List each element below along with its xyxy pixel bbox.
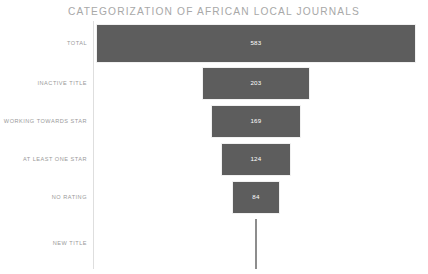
bar-track: 169 (96, 105, 416, 138)
category-label: WORKING TOWARDS STAR (4, 119, 87, 125)
bar-value-label: 124 (250, 156, 261, 162)
bar-value-label: 84 (252, 194, 259, 200)
category-label: NEW TITLE (53, 241, 87, 247)
chart-title: CATEGORIZATION OF AFRICAN LOCAL JOURNALS (0, 6, 428, 17)
bar-value-label: 169 (250, 118, 261, 124)
funnel-bar[interactable]: 169 (211, 105, 301, 138)
bar-track: 583 (96, 24, 416, 63)
funnel-bar[interactable] (255, 219, 257, 269)
funnel-row: NO RATING 84 (0, 181, 428, 214)
funnel-row: TOTAL 583 (0, 24, 428, 63)
funnel-row: NEW TITLE (0, 219, 428, 269)
funnel-row: INACTIVE TITLE 203 (0, 67, 428, 100)
funnel-chart: CATEGORIZATION OF AFRICAN LOCAL JOURNALS… (0, 0, 428, 274)
funnel-row: WORKING TOWARDS STAR 169 (0, 105, 428, 138)
funnel-bar[interactable]: 84 (232, 181, 281, 214)
category-label: TOTAL (67, 41, 87, 47)
bar-track: 124 (96, 143, 416, 176)
plot-area: TOTAL 583 INACTIVE TITLE 203 WORKING TOW… (0, 21, 428, 271)
funnel-bar[interactable]: 203 (202, 67, 310, 100)
category-label: NO RATING (52, 195, 87, 201)
bar-track: 84 (96, 181, 416, 214)
funnel-bar[interactable]: 583 (96, 24, 416, 63)
funnel-row: AT LEAST ONE STAR 124 (0, 143, 428, 176)
bar-track (96, 219, 416, 269)
bar-track: 203 (96, 67, 416, 100)
category-label: AT LEAST ONE STAR (23, 157, 87, 163)
bar-value-label: 203 (250, 80, 261, 86)
bar-value-label: 583 (250, 40, 261, 46)
category-label: INACTIVE TITLE (38, 81, 87, 87)
funnel-bar[interactable]: 124 (221, 143, 291, 176)
